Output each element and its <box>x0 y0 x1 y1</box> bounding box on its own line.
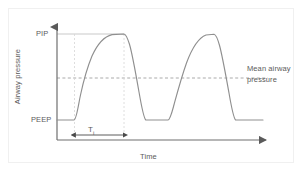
inspiratory-time-subscript: i <box>93 130 94 136</box>
peep-axis-label: PEEP <box>31 115 51 124</box>
y-axis-title: Airway pressure <box>13 42 22 112</box>
chart-canvas <box>0 0 304 172</box>
mean-airway-pressure-label: Mean airway pressure <box>247 64 297 85</box>
airway-pressure-waveform-figure: PIP PEEP Airway pressure Time Mean airwa… <box>0 0 304 172</box>
pip-axis-label: PIP <box>36 29 48 38</box>
x-axis-title: Time <box>140 152 157 161</box>
pressure-waveform <box>57 34 263 120</box>
inspiratory-time-label: Ti <box>88 125 94 138</box>
